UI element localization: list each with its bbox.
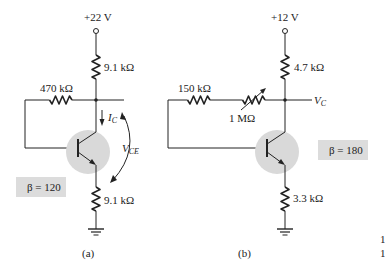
vce-arrow-top-icon — [120, 112, 126, 120]
caption-a: (a) — [82, 247, 95, 260]
resistor-re-b — [281, 187, 289, 211]
ic-label: IC — [107, 111, 118, 125]
rb-label-a: 470 kΩ — [40, 82, 73, 94]
rc-label-a: 9.1 kΩ — [104, 61, 134, 73]
re-label-b: 3.3 kΩ — [293, 192, 323, 204]
circuit-b: +12 V 4.7 kΩ VC 1 MΩ 150 kΩ β = 180 — [168, 11, 368, 260]
supply-voltage-b: +12 V — [271, 11, 299, 23]
resistor-re-a — [92, 187, 100, 211]
potentiometer-1m — [243, 96, 266, 104]
re-label-a: 9.1 kΩ — [104, 194, 134, 206]
supply-terminal-a — [94, 29, 99, 34]
circuit-figure: +22 V 9.1 kΩ 470 kΩ IC VCE β = 120 — [0, 0, 385, 273]
resistor-rb-a — [50, 96, 73, 104]
beta-label-b: β = 180 — [329, 144, 363, 156]
ground-icon-a — [88, 229, 104, 235]
edge-mark-1: 1 — [380, 233, 385, 245]
transistor-highlight-b — [255, 130, 299, 174]
transistor-highlight-a — [66, 130, 110, 174]
vce-label: VCE — [122, 142, 139, 156]
resistor-rb-b — [188, 96, 211, 104]
supply-voltage-a: +22 V — [84, 11, 112, 23]
beta-label-a: β = 120 — [27, 181, 61, 193]
resistor-rc-a — [92, 55, 100, 79]
supply-terminal-b — [283, 29, 288, 34]
ground-icon-b — [277, 229, 293, 235]
resistor-rc-b — [281, 55, 289, 79]
vc-label: VC — [314, 94, 327, 108]
pot-label: 1 MΩ — [229, 112, 255, 124]
rb-label-b: 150 kΩ — [178, 82, 211, 94]
ic-arrow-icon — [100, 119, 105, 126]
rc-label-b: 4.7 kΩ — [294, 61, 324, 73]
edge-mark-2: 1 — [380, 247, 385, 259]
circuit-a: +22 V 9.1 kΩ 470 kΩ IC VCE β = 120 — [16, 11, 139, 260]
caption-b: (b) — [238, 247, 251, 260]
